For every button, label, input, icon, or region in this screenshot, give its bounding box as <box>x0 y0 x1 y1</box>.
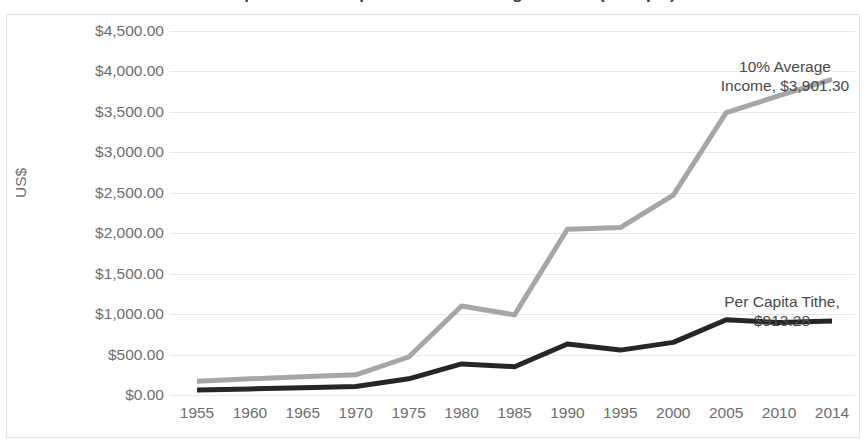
gridline <box>170 152 855 153</box>
y-axis-tick-labels: $4,500.00$4,000.00$3,500.00$3,000.00$2,5… <box>46 0 164 443</box>
high-series-label-line2: Income, $3,901.30 <box>703 76 867 95</box>
x-axis-tick-label: 2014 <box>815 404 849 422</box>
low-series-label-line2: $913.28 <box>700 311 864 330</box>
x-axis-tick-label: 1970 <box>339 404 373 422</box>
x-axis-tick-label: 1995 <box>603 404 637 422</box>
y-axis-tick-label: $500.00 <box>108 346 164 364</box>
gridline <box>170 193 855 194</box>
x-axis-tick-label: 1965 <box>286 404 320 422</box>
y-axis-title: US$ <box>12 168 30 198</box>
gridline <box>170 233 855 234</box>
y-axis-tick-label: $2,500.00 <box>95 184 164 202</box>
x-axis-tick-label: 1985 <box>497 404 531 422</box>
gridline <box>170 395 855 396</box>
x-axis-tick-label: 2000 <box>656 404 690 422</box>
x-axis-tick-label: 1955 <box>180 404 214 422</box>
x-axis-tick-label: 1990 <box>550 404 584 422</box>
x-axis-tick-label: 2005 <box>709 404 743 422</box>
gridline <box>170 355 855 356</box>
y-axis-tick-label: $4,000.00 <box>95 62 164 80</box>
chart-container: Per Capita Tithe Compared to 10% Average… <box>0 0 867 443</box>
high-series-end-label: 10% Average Income, $3,901.30 <box>703 57 867 95</box>
x-axis-tick-label: 1975 <box>391 404 425 422</box>
y-axis-tick-label: $3,500.00 <box>95 103 164 121</box>
gridline <box>170 31 855 32</box>
high-series-label-line1: 10% Average <box>703 57 867 76</box>
gridline <box>170 274 855 275</box>
y-axis-tick-label: $2,000.00 <box>95 224 164 242</box>
x-axis-tick-label: 1960 <box>233 404 267 422</box>
y-axis-tick-label: $1,500.00 <box>95 265 164 283</box>
y-axis-tick-label: $3,000.00 <box>95 143 164 161</box>
y-axis-tick-label: $1,000.00 <box>95 305 164 323</box>
y-axis-tick-label: $0.00 <box>125 386 164 404</box>
low-series-label-line1: Per Capita Tithe, <box>700 292 864 311</box>
x-axis-tick-label: 1980 <box>444 404 478 422</box>
x-axis-tick-label: 2010 <box>762 404 796 422</box>
y-axis-tick-label: $4,500.00 <box>95 22 164 40</box>
x-axis-tick-labels: 1955196019651970197519801985199019952000… <box>0 404 867 430</box>
gridline <box>170 112 855 113</box>
low-series-end-label: Per Capita Tithe, $913.28 <box>700 292 864 330</box>
